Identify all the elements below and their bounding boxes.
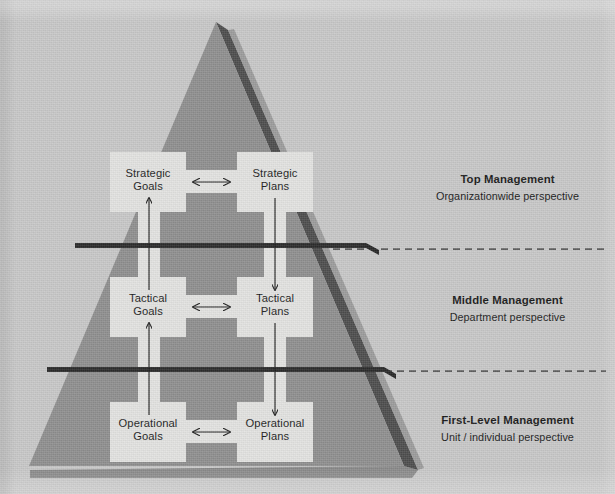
label-tactical-plans: Tactical Plans <box>237 292 313 318</box>
legend-first-level-management-title: First-Level Management <box>400 413 615 428</box>
divider-band-middle-first-side <box>384 367 396 379</box>
legend-first-level-management-subtitle: Unit / individual perspective <box>400 430 615 445</box>
legend-middle-management-title: Middle Management <box>405 293 610 308</box>
label-tactical-goals: Tactical Goals <box>110 292 186 318</box>
legend-middle-management: Middle Management Department perspective <box>405 293 610 325</box>
divider-band-middle-first <box>47 367 384 372</box>
label-strategic-plans: Strategic Plans <box>237 167 313 193</box>
label-operational-plans: Operational Plans <box>233 417 317 443</box>
divider-band-top-middle <box>75 243 366 248</box>
legend-top-management-subtitle: Organizationwide perspective <box>405 189 610 204</box>
legend-middle-management-subtitle: Department perspective <box>405 310 610 325</box>
legend-top-management: Top Management Organizationwide perspect… <box>405 172 610 204</box>
legend-top-management-title: Top Management <box>405 172 610 187</box>
planning-pyramid-figure: Strategic Goals Strategic Plans Tactical… <box>0 0 615 494</box>
label-operational-goals: Operational Goals <box>106 417 190 443</box>
legend-first-level-management: First-Level Management Unit / individual… <box>400 413 615 445</box>
label-strategic-goals: Strategic Goals <box>110 167 186 193</box>
